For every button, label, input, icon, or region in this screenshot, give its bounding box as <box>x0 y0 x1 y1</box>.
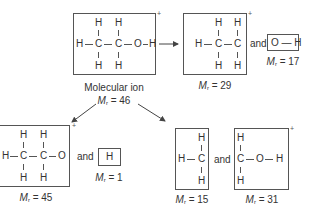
mr-value: = 29 <box>212 80 232 91</box>
bond <box>143 44 148 45</box>
atom-h: H <box>20 173 27 183</box>
atom-h: H <box>195 39 202 49</box>
atom-c: C <box>198 154 205 164</box>
mr-subscript: r <box>275 61 277 67</box>
bond <box>104 44 112 45</box>
charge-plus: + <box>72 122 76 129</box>
atom-h: H <box>20 130 27 140</box>
atom-h: H <box>276 154 283 164</box>
bond <box>237 30 238 36</box>
mr-value: = 31 <box>259 194 279 205</box>
atom-h: H <box>95 18 102 28</box>
bond <box>10 156 18 157</box>
atom-h: H <box>215 61 222 71</box>
bond <box>43 142 44 148</box>
atom-c: C <box>20 151 27 161</box>
bond <box>98 52 99 58</box>
mr-subscript: r <box>184 199 186 205</box>
atom-h: H <box>198 133 205 143</box>
mr-value: = 45 <box>33 192 53 203</box>
charge-plus: + <box>157 10 161 17</box>
atom-o: O <box>256 154 264 164</box>
atom-h: H <box>237 176 244 186</box>
mr-subscript: r <box>28 197 30 203</box>
bond <box>204 44 212 45</box>
fragment-31-mass: Mr = 31 <box>246 194 279 208</box>
mr-value: = 1 <box>108 172 122 183</box>
atom-h: H <box>149 39 156 49</box>
atom-h: H <box>178 154 185 164</box>
atom-h: H <box>215 18 222 28</box>
atom-h: H <box>40 130 47 140</box>
bond <box>218 30 219 36</box>
bond <box>43 164 44 170</box>
bond <box>201 145 202 151</box>
bond <box>85 44 93 45</box>
bond <box>240 167 241 173</box>
mr-value: = 17 <box>280 56 300 67</box>
mr-subscript: r <box>254 199 256 205</box>
atom-c: C <box>234 39 241 49</box>
atom-h: H <box>95 61 102 71</box>
and-label: and <box>214 155 231 165</box>
bond <box>118 30 119 36</box>
mr-subscript: r <box>106 100 108 106</box>
bond <box>23 164 24 170</box>
mr-subscript: r <box>207 85 209 91</box>
fragment-29-mass: Mr = 29 <box>199 80 232 94</box>
atom-h: H <box>115 61 122 71</box>
and-label: and <box>77 152 94 162</box>
atom-h: H <box>76 39 83 49</box>
atom-o: O <box>58 151 66 161</box>
atom-h: H <box>198 176 205 186</box>
atom-h: H <box>115 18 122 28</box>
arrow-down-right <box>138 104 165 121</box>
hydroxyl-formula: O — H <box>271 38 302 48</box>
mr-value: = 15 <box>189 194 209 205</box>
atom-c: C <box>40 151 47 161</box>
atom-c: C <box>237 154 244 164</box>
mr-subscript: r <box>104 177 106 183</box>
fragment-1-mass: Mr = 1 <box>95 172 122 186</box>
bond <box>265 159 273 160</box>
bond <box>240 145 241 151</box>
molecular-ion-mass: Mr = 46 <box>98 95 131 109</box>
bond <box>98 30 99 36</box>
bond <box>201 167 202 173</box>
molecular-ion-label: Molecular ion <box>84 82 143 93</box>
bond <box>187 159 195 160</box>
charge-plus: + <box>290 125 294 132</box>
bond <box>224 44 232 45</box>
arrow-down-left <box>72 104 96 122</box>
atom-o: O <box>134 39 142 49</box>
fragment-17-mass: Mr = 17 <box>267 56 300 70</box>
atom-c: C <box>215 39 222 49</box>
bond <box>23 142 24 148</box>
bond <box>124 44 132 45</box>
atom-c: C <box>95 39 102 49</box>
fragment-45-mass: Mr = 45 <box>20 192 53 206</box>
bond <box>218 52 219 58</box>
fragment-15-mass: Mr = 15 <box>176 194 209 208</box>
atom-c: C <box>115 39 122 49</box>
hydrogen-formula: H <box>106 152 113 162</box>
bond <box>49 156 56 157</box>
bond <box>118 52 119 58</box>
bond <box>237 52 238 58</box>
bond <box>29 156 37 157</box>
atom-h: H <box>2 151 9 161</box>
atom-h: H <box>234 61 241 71</box>
charge-plus: + <box>248 10 252 17</box>
and-label: and <box>250 39 267 49</box>
atom-h: H <box>234 18 241 28</box>
bond <box>246 159 254 160</box>
atom-h: H <box>40 173 47 183</box>
mr-value: = 46 <box>111 95 131 106</box>
atom-h: H <box>237 133 244 143</box>
